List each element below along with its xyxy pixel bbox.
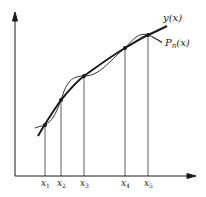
node-point [123,46,127,50]
polynomial-label-arg: (x) [176,37,190,48]
polynomial-label: Pn(x) [164,37,190,50]
node-points [43,33,150,127]
tick-label-x2: x2 [57,178,66,189]
tick-label-x1: x1 [41,178,50,189]
polynomial-curve [35,34,162,128]
interpolation-diagram: y(x) Pn(x) x1 x2 x3 x4 x5 [0,0,206,197]
node-point [59,98,63,102]
y-axis-arrow-icon [13,12,18,21]
poly-leader-line [152,37,162,43]
node-point [82,74,86,78]
tick-label-x3: x3 [80,178,89,189]
tick-label-x5: x5 [144,178,153,189]
tick-labels: x1 x2 x3 x4 x5 [41,178,153,189]
node-point [43,123,47,127]
x-axis-arrow-icon [187,174,196,179]
node-point [146,33,150,37]
tick-label-x4: x4 [121,178,130,189]
node-verticals [45,35,148,176]
function-label: y(x) [162,12,182,23]
